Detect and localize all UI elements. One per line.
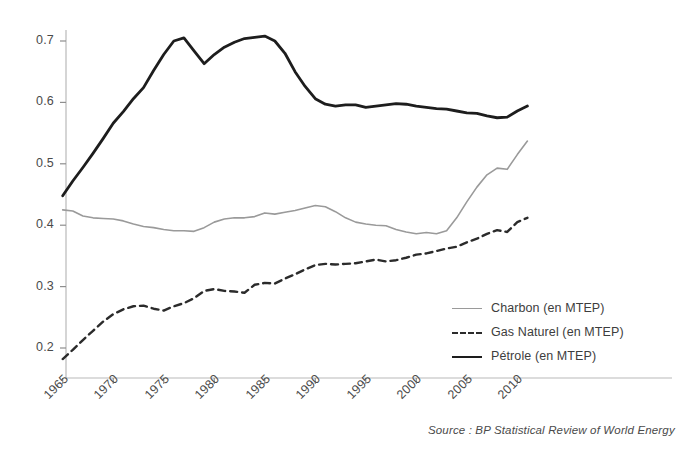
y-tick-label: 0.3 [20,279,54,293]
y-tick-label: 0.4 [20,217,54,231]
legend-line-petrole-icon [452,350,482,362]
legend-item-charbon: Charbon (en MTEP) [452,296,662,320]
y-tick-label: 0.5 [20,156,54,170]
legend-line-charbon-icon [452,302,482,314]
y-tick-label: 0.7 [20,33,54,47]
legend-label-petrole: Pétrole (en MTEP) [491,349,596,363]
x-axis-ticks [63,378,518,384]
series-line-charbon [63,141,528,234]
energy-share-line-chart: 0.20.30.40.50.60.7 196519701975198019851… [0,0,686,464]
source-note: Source : BP Statistical Review of World … [428,424,675,436]
legend-line-gas-naturel-icon [452,326,482,338]
legend-item-gas-naturel: Gas Naturel (en MTEP) [452,320,662,344]
y-tick-label: 0.2 [20,340,54,354]
legend-label-gas-naturel: Gas Naturel (en MTEP) [491,325,624,339]
chart-legend: Charbon (en MTEP) Gas Naturel (en MTEP) … [452,296,662,368]
series-line-p-trole [63,36,528,196]
legend-label-charbon: Charbon (en MTEP) [491,301,605,315]
y-tick-label: 0.6 [20,94,54,108]
legend-item-petrole: Pétrole (en MTEP) [452,344,662,368]
